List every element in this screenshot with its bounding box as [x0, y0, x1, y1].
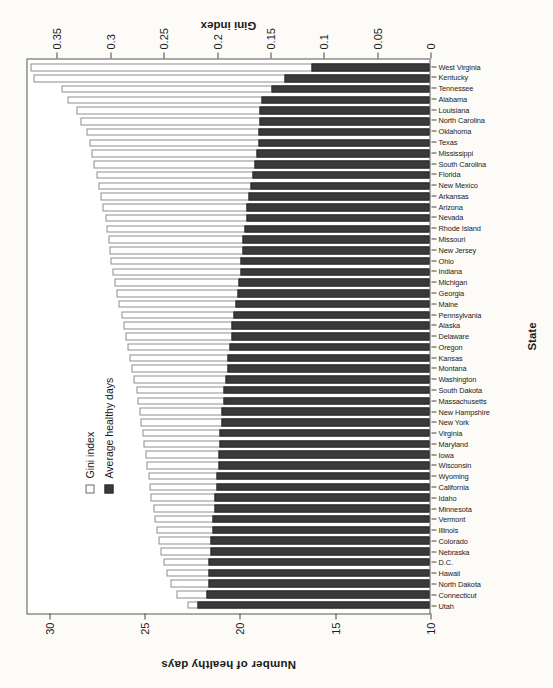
x-tick-slot: New York	[431, 417, 527, 428]
bar-average-healthy-days	[238, 278, 429, 286]
y2-axis-title-label: Gini index	[200, 19, 256, 31]
bar-slot	[27, 159, 429, 170]
x-axis-tick	[431, 119, 436, 120]
x-tick-slot: Delaware	[431, 331, 527, 342]
x-tick-slot: Michigan	[431, 277, 527, 288]
bar-average-healthy-days	[216, 483, 429, 491]
bar-average-healthy-days	[311, 63, 429, 71]
x-tick-slot: Maine	[431, 298, 527, 309]
bar-slot	[27, 503, 429, 514]
bar-average-healthy-days	[254, 160, 429, 168]
bar-average-healthy-days	[240, 257, 429, 265]
bar-average-healthy-days	[246, 214, 429, 222]
x-axis-tick-label: Arkansas	[438, 191, 468, 200]
x-tick-slot: Georgia	[431, 288, 527, 299]
x-axis-tick-label: Missouri	[438, 235, 465, 244]
bar-average-healthy-days	[244, 225, 429, 233]
x-axis-tick-label: Alabama	[438, 94, 466, 103]
x-tick-slot: Maryland	[431, 439, 527, 450]
bar-slot	[27, 266, 429, 277]
x-tick-slot: Arkansas	[431, 191, 527, 202]
x-axis-tick	[431, 464, 436, 465]
bar-average-healthy-days	[271, 85, 429, 93]
x-axis-tick-label: Rhode Island	[438, 224, 480, 233]
bar-slot	[27, 83, 429, 94]
x-tick-slot: Ohio	[431, 255, 527, 266]
x-axis-tick	[431, 141, 436, 142]
x-axis-tick-label: Washington	[438, 375, 476, 384]
bar-average-healthy-days	[250, 182, 429, 190]
y2-axis-title: Gini index	[26, 16, 430, 34]
bar-slot	[27, 148, 429, 159]
bar-slot	[27, 535, 429, 546]
bar-average-healthy-days	[218, 450, 430, 458]
x-tick-slot: Minnesota	[431, 503, 527, 514]
bar-average-healthy-days	[214, 493, 429, 501]
x-axis-tick	[431, 357, 436, 358]
bar-slot	[27, 255, 429, 266]
x-tick-slot: Massachusetts	[431, 395, 527, 406]
x-axis-tick	[431, 184, 436, 185]
y2-axis-tick	[163, 52, 164, 58]
x-axis-tick	[431, 324, 436, 325]
x-axis-tick	[431, 109, 436, 110]
bar-average-healthy-days	[212, 515, 429, 523]
x-tick-slot: Rhode Island	[431, 223, 527, 234]
x-tick-slot: Nebraska	[431, 546, 527, 557]
y2-axis-tick	[377, 52, 378, 58]
bar-slot	[27, 277, 429, 288]
x-tick-slot: West Virginia	[431, 61, 527, 72]
x-tick-slot: Colorado	[431, 536, 527, 547]
bar-slot	[27, 62, 429, 73]
x-axis-tick	[431, 486, 436, 487]
x-tick-slot: Nevada	[431, 212, 527, 223]
y-axis-tick-label: 10	[424, 622, 436, 634]
x-axis-tick	[431, 335, 436, 336]
y2-axis-tick-label: 0.2	[211, 34, 223, 49]
x-tick-slot: New Hampshire	[431, 406, 527, 417]
x-axis-tick	[431, 152, 436, 153]
bar-average-healthy-days	[252, 171, 429, 179]
bar-slot	[27, 298, 429, 309]
x-tick-slot: Missouri	[431, 234, 527, 245]
x-axis-tick-label: Alaska	[438, 321, 460, 330]
bar-slot	[27, 180, 429, 191]
bar-average-healthy-days	[227, 364, 429, 372]
x-axis-tick	[431, 76, 436, 77]
bar-slot	[27, 73, 429, 84]
bar-average-healthy-days	[261, 96, 429, 104]
bar-average-healthy-days	[218, 461, 430, 469]
bar-average-healthy-days	[231, 332, 429, 340]
y2-axis-tick	[56, 52, 57, 58]
x-tick-slot: Louisiana	[431, 104, 527, 115]
x-axis-tick	[431, 540, 436, 541]
x-axis-tick-label: Colorado	[438, 536, 467, 545]
bar-slot	[27, 331, 429, 342]
y-axis-tick-label: 20	[233, 622, 245, 634]
bar-slot	[27, 223, 429, 234]
x-tick-slot: Illinois	[431, 525, 527, 536]
x-axis-tick-label: North Dakota	[438, 580, 480, 589]
bar-slot	[27, 94, 429, 105]
bar-average-healthy-days	[210, 536, 429, 544]
y2-axis-tick	[110, 52, 111, 58]
x-tick-slot: New Mexico	[431, 180, 527, 191]
bar-average-healthy-days	[258, 139, 430, 147]
x-axis-tick-label: Connecticut	[438, 590, 476, 599]
x-axis-tick-label: South Carolina	[438, 159, 486, 168]
bar-average-healthy-days	[248, 192, 429, 200]
x-axis-tick	[431, 66, 436, 67]
x-axis-tick	[431, 594, 436, 595]
x-axis-tick-label: South Dakota	[438, 385, 482, 394]
bar-slot	[27, 309, 429, 320]
bar-slot	[27, 589, 429, 600]
y-axis-tick-label: 25	[138, 622, 150, 634]
figure-page: Number of healthy days Gini index Averag…	[0, 0, 553, 688]
y-axis-tick-label: 15	[329, 622, 341, 634]
x-tick-slot: Oklahoma	[431, 126, 527, 137]
x-tick-slot: Utah	[431, 600, 527, 611]
bar-average-healthy-days	[221, 418, 429, 426]
y-axis-right: 00.050.10.150.20.250.30.35	[26, 57, 430, 58]
x-tick-slot: South Dakota	[431, 385, 527, 396]
bar-average-healthy-days	[259, 117, 429, 125]
